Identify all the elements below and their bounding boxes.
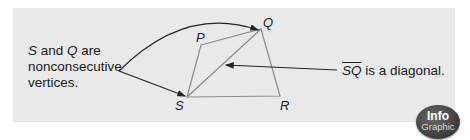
diagonal-text: is a diagonal. xyxy=(362,63,445,78)
arrow-to-diagonal xyxy=(226,65,337,70)
var-s: S xyxy=(28,43,37,58)
note-text: are xyxy=(78,43,101,58)
nonconsecutive-note: S and Q are nonconsecutive vertices. xyxy=(28,43,123,91)
note-line-2: nonconsecutive xyxy=(28,59,122,74)
arrow-to-q xyxy=(119,23,258,71)
note-line-3: vertices. xyxy=(28,75,78,90)
vertex-s: S xyxy=(175,98,184,113)
diagonal-note: SQ is a diagonal. xyxy=(342,63,445,79)
vertex-p: P xyxy=(196,30,205,45)
arrow-to-s xyxy=(119,71,185,96)
var-q: Q xyxy=(67,43,78,58)
infographic-badge: Info Graphic xyxy=(416,105,460,139)
vertex-r: R xyxy=(280,98,289,113)
vertex-q: Q xyxy=(263,15,273,30)
badge-line-2: Graphic xyxy=(416,122,460,132)
segment-sq: SQ xyxy=(342,63,362,78)
note-text: and xyxy=(37,43,67,58)
